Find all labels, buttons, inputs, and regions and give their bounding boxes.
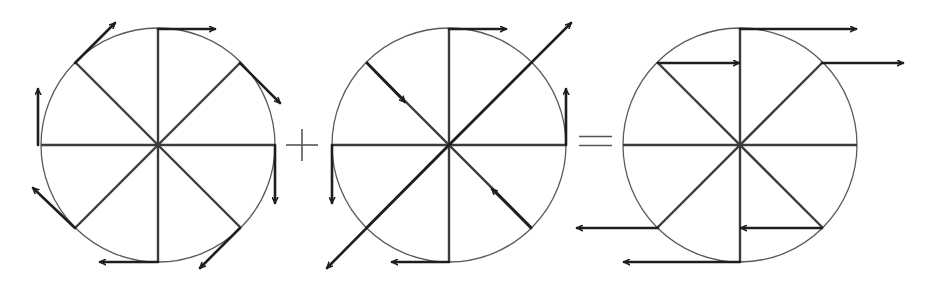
equals-sign <box>579 137 612 146</box>
velocity-arrow-icon <box>449 23 571 145</box>
velocity-arrow-icon <box>327 145 449 268</box>
diagram-canvas <box>0 0 934 286</box>
strain-field-panel <box>327 23 571 268</box>
velocity-arrow-icon <box>240 63 280 103</box>
velocity-arrow-icon <box>33 188 75 228</box>
velocity-arrow-icon <box>367 63 405 102</box>
resultant-field-panel <box>577 28 903 262</box>
vector-field-diagram <box>0 0 934 286</box>
velocity-arrow-icon <box>200 228 240 268</box>
plus-sign <box>286 129 318 161</box>
velocity-arrow-icon <box>75 23 115 63</box>
rotation-field-panel <box>33 23 280 268</box>
panels-group <box>33 23 903 268</box>
velocity-arrow-icon <box>492 189 531 228</box>
